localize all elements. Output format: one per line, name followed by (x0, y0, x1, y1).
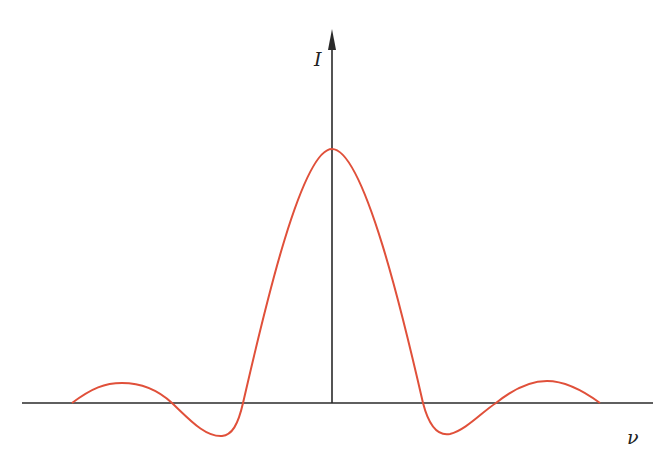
intensity-curve (72, 149, 600, 436)
diffraction-pattern-diagram: I ν (0, 0, 671, 451)
y-axis-label: I (313, 48, 322, 70)
x-axis-label: ν (627, 426, 639, 448)
y-axis-arrow-icon (328, 29, 336, 50)
